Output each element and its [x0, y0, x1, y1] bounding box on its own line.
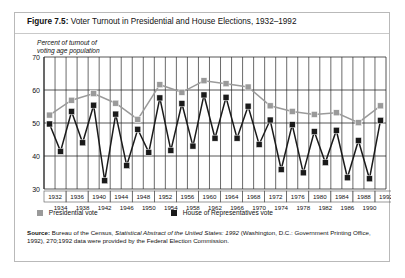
x-axis-tick-label-midterm: 1946 [120, 204, 134, 211]
data-point-marker [113, 100, 119, 106]
data-point-marker [333, 110, 339, 116]
x-axis-tick-label-presidential: 1944 [114, 193, 128, 200]
x-axis-tick-label-presidential: 1988 [357, 193, 371, 200]
legend-item-house: House of Representatives vote [171, 209, 273, 216]
legend-swatch-presidential [37, 210, 43, 216]
data-point-marker [377, 103, 383, 109]
data-point-marker [157, 82, 163, 88]
x-axis-tick-label-presidential: 1968 [247, 193, 261, 200]
data-point-marker [212, 135, 218, 141]
data-point-marker [344, 175, 350, 181]
data-point-marker [91, 102, 97, 108]
data-point-marker [366, 176, 372, 182]
data-point-marker [135, 116, 141, 122]
data-point-marker [47, 112, 53, 118]
data-point-marker [223, 94, 229, 100]
data-point-marker [355, 120, 361, 126]
legend-label-presidential: Presidential vote [49, 209, 98, 216]
data-point-marker [355, 137, 361, 143]
y-axis-tick-label: 60 [32, 87, 40, 94]
x-axis-tick-label-presidential: 1964 [225, 193, 239, 200]
legend-item-presidential: Presidential vote [37, 209, 98, 216]
data-point-marker [179, 101, 185, 107]
x-axis-tick-label-presidential: 1952 [158, 193, 172, 200]
y-axis-caption-line1: Percent of turnout of [37, 39, 100, 47]
data-point-marker [245, 103, 251, 109]
x-axis-tick-label-midterm: 1986 [341, 204, 355, 211]
data-point-marker [245, 84, 251, 90]
x-axis-tick-label-presidential: 1976 [291, 193, 305, 200]
data-point-marker [135, 126, 141, 132]
source-text-before: Bureau of the Census, [50, 229, 115, 236]
data-point-marker [201, 78, 207, 84]
y-axis-tick-label: 50 [32, 120, 40, 127]
x-axis-tick-label-presidential: 1984 [335, 193, 349, 200]
data-point-marker [146, 149, 152, 155]
x-axis-tick-label-presidential: 1980 [313, 193, 327, 200]
data-point-marker [267, 117, 273, 123]
data-point-marker [201, 92, 207, 98]
data-point-marker [256, 141, 262, 147]
title-divider [15, 33, 389, 34]
x-axis-tick-label-presidential: 1956 [181, 193, 195, 200]
data-point-marker [223, 81, 229, 87]
data-point-marker [58, 148, 64, 154]
y-axis-tick-label: 30 [32, 186, 40, 193]
data-point-marker [190, 143, 196, 149]
data-point-marker [80, 140, 86, 146]
data-point-marker [300, 170, 306, 176]
x-axis-tick-label-midterm: 1942 [98, 204, 112, 211]
data-point-marker [278, 167, 284, 173]
figure-panel: Figure 7.5: Voter Turnout in Presidentia… [14, 12, 390, 262]
figure-title-bar: Figure 7.5: Voter Turnout in Presidentia… [15, 13, 389, 33]
y-axis-tick-label: 70 [32, 54, 40, 61]
x-axis-tick-label-presidential: 1992 [379, 193, 391, 200]
x-axis-tick-label-midterm: 1978 [296, 204, 310, 211]
x-axis-tick-label-midterm: 1982 [318, 204, 332, 211]
data-point-marker [179, 89, 185, 95]
data-point-marker [234, 135, 240, 141]
line-chart-svg: 3040506070193219361940194419481952195619… [15, 53, 391, 221]
data-point-marker [267, 103, 273, 109]
legend-label-house: House of Representatives vote [183, 209, 273, 216]
data-point-marker [124, 163, 130, 169]
x-axis-tick-label-midterm: 1950 [142, 204, 156, 211]
data-point-marker [333, 127, 339, 133]
data-point-marker [289, 122, 295, 128]
data-point-marker [377, 117, 383, 123]
data-point-marker [69, 108, 75, 114]
y-axis-tick-label: 40 [32, 153, 40, 160]
x-axis-tick-label-midterm: 1990 [363, 204, 377, 211]
data-point-marker [168, 147, 174, 153]
page-title: Figure 7.5: Voter Turnout in Presidentia… [27, 17, 296, 26]
x-axis-tick-label-presidential: 1936 [70, 193, 84, 200]
source-note: Source: Bureau of the Census, Statistica… [27, 229, 379, 246]
data-point-marker [91, 91, 97, 97]
chart-plot: 3040506070193219361940194419481952195619… [15, 53, 391, 221]
data-point-marker [47, 121, 53, 127]
legend-swatch-house [171, 210, 177, 216]
y-axis-caption: Percent of turnout of voting age populat… [37, 39, 100, 54]
x-axis-tick-label-presidential: 1932 [48, 193, 62, 200]
x-axis-tick-label-presidential: 1960 [203, 193, 217, 200]
data-point-marker [322, 160, 328, 166]
x-axis-tick-label-presidential: 1940 [92, 193, 106, 200]
x-axis-tick-label-presidential: 1972 [269, 193, 283, 200]
x-axis-tick-label-midterm: 1974 [274, 204, 288, 211]
data-point-marker [69, 97, 75, 103]
source-italic-title: Statistical Abstract of the United State… [115, 229, 239, 236]
figure-title-text: Voter Turnout in Presidential and House … [71, 17, 297, 26]
data-point-marker [289, 108, 295, 114]
data-point-marker [311, 111, 317, 117]
data-point-marker [102, 178, 108, 184]
data-point-marker [311, 129, 317, 135]
source-label: Source: [27, 229, 50, 236]
figure-number-label: Figure 7.5: [27, 17, 68, 26]
data-point-marker [157, 95, 163, 101]
x-axis-tick-label-presidential: 1948 [136, 193, 150, 200]
data-point-marker [113, 111, 119, 117]
